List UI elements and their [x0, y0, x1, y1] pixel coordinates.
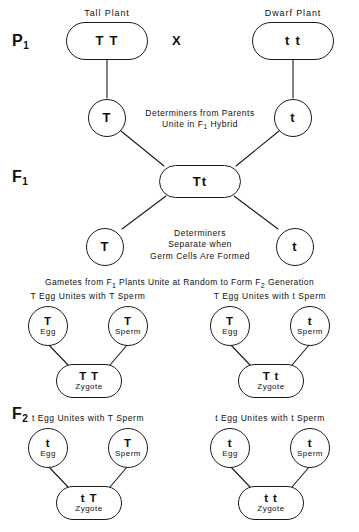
f2-cross-4-zygote-node: t t Zygote — [238, 486, 304, 520]
p1-gamete-t-node: T — [88, 99, 126, 137]
line-cross1-sperm-to-zygote — [110, 344, 128, 365]
f2-cross-1-zygote-label: Zygote — [75, 383, 102, 391]
line-cross1-egg-to-zygote — [48, 344, 68, 365]
dwarf-plant-title: Dwarf Plant — [251, 8, 335, 18]
p1-dwarf-genotype: t t — [285, 34, 301, 47]
f2-cross-2-zygote-label: Zygote — [257, 383, 284, 391]
f1-gamete-t-lower-allele: t — [292, 240, 298, 253]
f2-cross-1-sperm-node: T Sperm — [108, 306, 148, 346]
f2-cross-2-egg-node: T Egg — [210, 306, 250, 346]
f2-cross-2-header: T Egg Unites with t Sperm — [190, 291, 350, 301]
f2-cross-3-sperm-label: Sperm — [115, 450, 141, 458]
p1-gamete-t-lower-allele: t — [290, 111, 296, 124]
p1-tall-parent-node: T T — [66, 22, 148, 60]
f2-cross-4-sperm-node: t Sperm — [290, 428, 330, 468]
p1-tall-genotype: T T — [95, 34, 118, 47]
f1-hybrid-genotype: Tt — [193, 175, 208, 188]
line-cross2-sperm-to-zygote — [292, 344, 310, 365]
determiners-unite-line1: Determiners from Parents — [145, 108, 254, 118]
f2-cross-4-header: t Egg Unites with t Sperm — [190, 413, 350, 423]
line-cross4-egg-to-zygote — [230, 466, 250, 487]
f2-cross-4-sperm-label: Sperm — [297, 450, 323, 458]
f2-gametes-banner: Gametes from F1 Plants Unite at Random t… — [0, 277, 359, 290]
f2-cross-2-zygote-node: T t Zygote — [238, 364, 304, 398]
line-cross2-egg-to-zygote — [230, 344, 250, 365]
cross-symbol: X — [172, 33, 181, 48]
line-f1-to-gamete-right — [234, 196, 278, 229]
p1-gamete-t-allele: T — [102, 111, 111, 124]
f2-cross-1-sperm-label: Sperm — [115, 328, 141, 336]
f2-cross-4-egg-label: Egg — [222, 450, 238, 458]
f2-cross-3-header: t Egg Unites with T Sperm — [8, 413, 168, 423]
genetics-diagram: P1 Tall Plant T T X Dwarf Plant t t T t … — [0, 0, 359, 532]
f2-cross-4-egg-node: t Egg — [210, 428, 250, 468]
f2-cross-3-sperm-node: T Sperm — [108, 428, 148, 468]
f2-cross-2-sperm-node: t Sperm — [290, 306, 330, 346]
p1-gamete-t-lower-node: t — [274, 99, 312, 137]
tall-plant-title: Tall Plant — [65, 8, 149, 18]
generation-label-f1: F1 — [12, 168, 28, 187]
f2-cross-3-zygote-label: Zygote — [75, 505, 102, 513]
determiners-separate-line2: Separate when — [168, 239, 232, 249]
determiners-unite-line2-post: Hybrid — [208, 119, 238, 129]
generation-label-p1: P1 — [12, 32, 29, 51]
f2-cross-3-egg-label: Egg — [40, 450, 56, 458]
f1-gamete-t-node: T — [86, 228, 124, 266]
line-cross3-sperm-to-zygote — [110, 466, 128, 487]
line-f1-to-gamete-left — [122, 196, 166, 229]
f2-cross-1-egg-node: T Egg — [28, 306, 68, 346]
f1-gamete-t-allele: T — [100, 240, 109, 253]
f1-hybrid-node: Tt — [159, 165, 241, 198]
line-cross3-egg-to-zygote — [48, 466, 68, 487]
f2-cross-1-egg-label: Egg — [40, 328, 56, 336]
f2-cross-4-zygote-label: Zygote — [257, 505, 284, 513]
f2-banner-mid: Plants Unite at Random to Form F — [116, 277, 261, 287]
f2-banner-post: Generation — [265, 277, 314, 287]
f2-banner-pre: Gametes from F — [45, 277, 112, 287]
determiners-unite-line2-pre: Unite in F — [162, 119, 203, 129]
f2-cross-1-header: T Egg Unites with T Sperm — [8, 291, 168, 301]
determiners-separate-line3: Germ Cells Are Formed — [150, 251, 250, 261]
determiners-separate-caption: Determiners Separate when Germ Cells Are… — [130, 228, 270, 262]
determiners-unite-caption: Determiners from Parents Unite in F1 Hyb… — [128, 108, 272, 132]
f2-cross-3-zygote-node: t T Zygote — [56, 486, 122, 520]
line-cross4-sperm-to-zygote — [292, 466, 310, 487]
f2-cross-1-zygote-node: T T Zygote — [56, 364, 122, 398]
f2-cross-2-egg-label: Egg — [222, 328, 238, 336]
determiners-separate-line1: Determiners — [174, 228, 226, 238]
line-gamete-right-to-f1 — [236, 131, 279, 166]
line-gamete-left-to-f1 — [121, 131, 164, 166]
f2-cross-2-sperm-label: Sperm — [297, 328, 323, 336]
p1-dwarf-parent-node: t t — [252, 22, 334, 60]
f1-gamete-t-lower-node: t — [276, 228, 314, 266]
f2-cross-3-egg-node: t Egg — [28, 428, 68, 468]
